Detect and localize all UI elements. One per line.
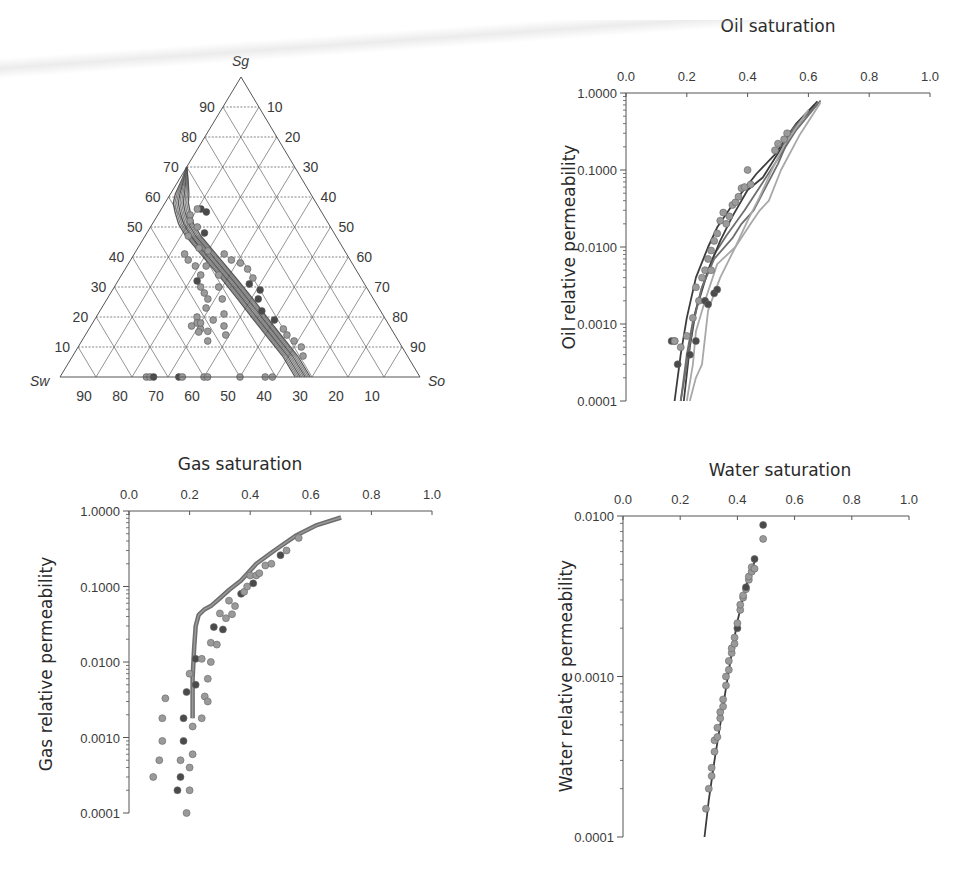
water-chart-title: Water saturation: [709, 460, 851, 480]
data-point: [257, 287, 264, 294]
data-point: [291, 338, 298, 345]
data-point: [228, 257, 235, 264]
data-point: [185, 257, 192, 264]
x-tick-label: 0.8: [843, 492, 861, 507]
data-point: [702, 805, 709, 812]
data-point: [188, 323, 195, 330]
y-tick-label: 0.0001: [574, 830, 614, 845]
data-point: [177, 757, 184, 764]
data-point: [742, 584, 749, 591]
data-point: [185, 233, 192, 240]
data-point: [699, 274, 706, 281]
vertex-label-sg: Sg: [232, 53, 249, 69]
x-tick-label: 0.6: [799, 69, 817, 84]
grid-line-so: [96, 107, 259, 377]
y-tick-label: 0.0001: [577, 394, 617, 409]
grid-line-sw: [78, 347, 96, 377]
data-point: [204, 675, 211, 682]
data-point: [204, 338, 211, 345]
data-point: [708, 764, 715, 771]
data-point: [284, 332, 291, 339]
data-point: [221, 311, 228, 318]
series-line-highlight: [193, 518, 342, 719]
data-point: [692, 338, 699, 345]
data-point: [232, 603, 239, 610]
tick-label-sg: 60: [145, 189, 161, 205]
x-tick-label: 0.4: [728, 492, 746, 507]
data-point: [708, 247, 715, 254]
data-point: [268, 560, 275, 567]
data-point: [216, 610, 223, 617]
x-tick-label: 0.6: [786, 492, 804, 507]
data-point: [751, 565, 758, 572]
gas-relperm-chart: Gas saturation Gas relative permeability…: [36, 454, 441, 821]
gas-axes: 0.00.20.40.60.81.01.00000.10000.01000.00…: [80, 487, 441, 821]
gas-y-axis-label: Gas relative permeability: [36, 557, 56, 771]
data-point: [256, 570, 263, 577]
data-point: [156, 757, 163, 764]
tick-label-so: 30: [303, 159, 319, 175]
sg-label-text: Sg: [232, 53, 249, 69]
data-point: [186, 764, 193, 771]
grid-line-so: [384, 347, 402, 377]
y-tick-label: 0.1000: [80, 580, 120, 595]
y-tick-label: 0.0010: [80, 731, 120, 746]
data-point: [784, 130, 791, 137]
x-tick-label: 0.0: [614, 492, 632, 507]
x-tick-label: 0.2: [671, 492, 689, 507]
data-point: [183, 689, 190, 696]
water-y-axis-label: Water relative permeability: [556, 560, 576, 792]
data-point: [180, 715, 187, 722]
tick-label-so: 40: [321, 189, 337, 205]
data-point: [705, 301, 712, 308]
data-point: [250, 580, 257, 587]
data-point: [255, 296, 262, 303]
series-line-sim-1: [675, 101, 818, 401]
data-point: [203, 209, 210, 216]
data-point: [159, 737, 166, 744]
series-line-sim-5: [681, 104, 818, 401]
tick-label-so: 70: [374, 279, 390, 295]
data-point: [708, 267, 715, 274]
data-point: [201, 230, 208, 237]
data-point: [222, 332, 229, 339]
data-point: [760, 521, 767, 528]
tick-label-sg: 30: [91, 279, 107, 295]
data-point: [720, 209, 727, 216]
water-relperm-chart: Water saturation Water relative permeabi…: [556, 460, 918, 845]
data-point: [197, 320, 204, 327]
data-point: [740, 592, 747, 599]
data-point: [760, 535, 767, 542]
data-point: [300, 353, 307, 360]
tick-label-so: 20: [285, 129, 301, 145]
tick-label-sw: 40: [256, 388, 272, 404]
data-point: [195, 329, 202, 336]
tick-label-sg: 80: [181, 129, 197, 145]
data-point: [237, 260, 244, 267]
data-point: [734, 620, 741, 627]
oil-axes: 0.00.20.40.60.81.01.00000.10000.01000.00…: [577, 69, 939, 409]
gas-chart-title: Gas saturation: [178, 454, 303, 474]
ternary-tick-labels: 1020304050607080909080706050403020109080…: [55, 99, 426, 404]
data-point: [720, 703, 727, 710]
data-point: [705, 785, 712, 792]
x-tick-label: 0.0: [120, 487, 138, 502]
x-tick-label: 0.2: [678, 69, 696, 84]
data-point: [723, 220, 730, 227]
data-point: [731, 634, 738, 641]
grid-line-sw: [114, 287, 168, 377]
tick-label-sw: 60: [184, 388, 200, 404]
data-point: [751, 555, 758, 562]
y-tick-label: 1.0000: [80, 504, 120, 519]
water-simulated-curves: [705, 562, 755, 837]
data-point: [215, 272, 222, 279]
data-point: [197, 272, 204, 279]
data-point: [686, 351, 693, 358]
tick-label-sw: 70: [148, 388, 164, 404]
x-tick-label: 0.8: [362, 487, 380, 502]
data-point: [196, 245, 203, 252]
y-tick-label: 0.0010: [577, 317, 617, 332]
x-tick-label: 0.8: [860, 69, 878, 84]
data-point: [692, 284, 699, 291]
data-point: [714, 733, 721, 740]
